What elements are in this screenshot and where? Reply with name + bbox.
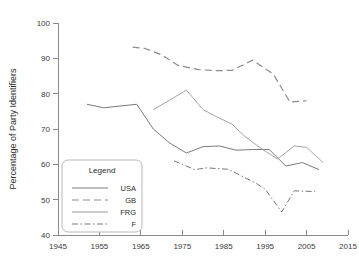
legend-title: Legend	[89, 166, 116, 175]
x-tick-label-1995: 1995	[256, 242, 274, 251]
y-tick-label-80: 80	[41, 90, 50, 99]
x-tick-label-1945: 1945	[49, 242, 67, 251]
x-tick-label-2005: 2005	[298, 242, 316, 251]
y-axis: 405060708090100 Percentage of Party Iden…	[8, 19, 58, 240]
legend-label-frg: FRG	[120, 208, 136, 217]
y-axis-title: Percentage of Party Identifiers	[8, 68, 18, 190]
y-tick-label-100: 100	[37, 19, 51, 28]
y-tick-label-90: 90	[41, 54, 50, 63]
x-tick-label-1985: 1985	[215, 242, 233, 251]
line-chart: 405060708090100 Percentage of Party Iden…	[0, 0, 359, 274]
y-tick-label-40: 40	[41, 231, 50, 240]
legend-label-gb: GB	[125, 196, 136, 205]
x-tick-label-1955: 1955	[91, 242, 109, 251]
y-axis-ticks: 405060708090100	[37, 19, 58, 240]
chart-container: 405060708090100 Percentage of Party Iden…	[0, 0, 359, 274]
x-tick-label-2015: 2015	[339, 242, 357, 251]
y-tick-label-60: 60	[41, 160, 50, 169]
legend-label-usa: USA	[121, 184, 136, 193]
legend-label-f: F	[131, 220, 136, 229]
y-tick-label-70: 70	[41, 125, 50, 134]
series-line-f	[174, 161, 315, 212]
x-tick-label-1975: 1975	[173, 242, 191, 251]
chart-legend: Legend USAGBFRGF	[62, 160, 142, 232]
x-axis: 19451955196519751985199520052015	[49, 230, 357, 251]
x-tick-label-1965: 1965	[132, 242, 150, 251]
y-tick-label-50: 50	[41, 196, 50, 205]
x-axis-ticks: 19451955196519751985199520052015	[49, 230, 357, 251]
series-line-gb	[133, 47, 307, 102]
